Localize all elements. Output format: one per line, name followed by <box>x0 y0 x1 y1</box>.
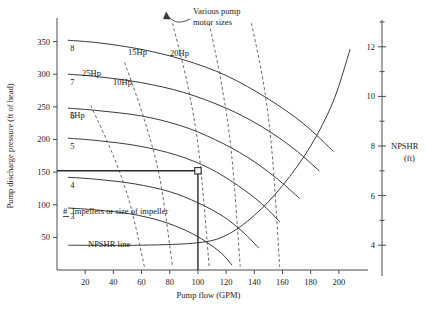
motor-size-leader-line <box>166 12 190 22</box>
x-tick-label: 100 <box>192 277 205 287</box>
x-tick-label: 160 <box>276 277 289 287</box>
x-tick-label: 20 <box>81 277 90 287</box>
npshr-line-note: NPSHR line <box>88 239 130 249</box>
x-tick-label: 120 <box>220 277 233 287</box>
hp-label-25hp: 25Hp <box>82 68 101 78</box>
npshr-tick-label: 10 <box>367 91 376 101</box>
x-tick-label: 60 <box>137 277 146 287</box>
y-tick-label: 50 <box>42 232 51 242</box>
motor-size-note-line2: motor sizes <box>193 17 232 27</box>
impeller-label-8: 8 <box>70 43 74 53</box>
y-tick-label: 250 <box>37 102 50 112</box>
impeller-label-5: 5 <box>70 141 74 151</box>
hp-label-5hp: 5Hp <box>70 110 85 120</box>
y-tick-label: 200 <box>37 134 50 144</box>
pump-curve-impeller-7 <box>68 74 319 171</box>
y-tick-label: 100 <box>37 200 50 210</box>
pump-performance-chart: 5010015020025030035020406080100120140160… <box>0 0 427 309</box>
hp-label-15hp: 15Hp <box>128 47 147 57</box>
x-tick-label: 40 <box>109 277 118 287</box>
impeller-label-7: 7 <box>70 77 74 87</box>
npshr-axis-units: (ft) <box>404 153 415 163</box>
impeller-note-text: Impellers or size of impeller <box>72 206 168 216</box>
y-tick-label: 350 <box>37 37 50 47</box>
impeller-note-symbol: # <box>63 206 68 216</box>
x-tick-label: 140 <box>248 277 261 287</box>
chart-canvas: 5010015020025030035020406080100120140160… <box>0 0 427 309</box>
pump-curve-impeller-6 <box>68 108 299 198</box>
x-tick-label: 80 <box>165 277 174 287</box>
y-axis-title: Pump discharge pressure (ft of head) <box>5 83 15 208</box>
npshr-tick-label: 4 <box>371 240 376 250</box>
y-tick-label: 150 <box>37 167 50 177</box>
npshr-tick-label: 12 <box>367 42 376 52</box>
motor-size-note-line1: Various pump <box>193 6 240 16</box>
x-axis-title: Pump flow (GPM) <box>177 290 241 300</box>
hp-label-20hp: 20Hp <box>170 48 189 58</box>
hp-curve-10hp <box>125 62 173 266</box>
x-tick-label: 180 <box>304 277 317 287</box>
npshr-tick-label: 8 <box>371 141 375 151</box>
impeller-label-4: 4 <box>70 180 75 190</box>
y-tick-label: 300 <box>37 69 50 79</box>
pump-curve-impeller-3 <box>68 208 231 265</box>
pump-curve-impeller-8 <box>68 40 333 151</box>
hp-label-10hp: 10Hp <box>113 77 132 87</box>
npshr-axis-title: NPSHR <box>391 141 419 151</box>
hp-curve-20hp <box>251 23 279 266</box>
npshr-tick-label: 6 <box>371 191 375 201</box>
hp-curve-25hp <box>173 23 210 266</box>
operating-point-marker[interactable] <box>195 168 201 174</box>
x-tick-label: 200 <box>332 277 345 287</box>
